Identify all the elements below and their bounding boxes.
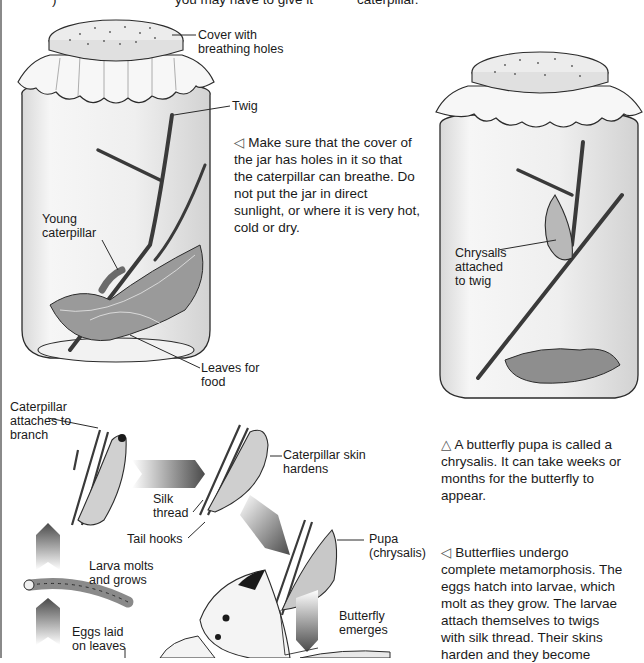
caption-metamorphosis-line: harden and they become (441, 646, 644, 663)
label-chrysalis-line1: Chrysalis (455, 246, 506, 260)
caption-jar-line: cold or dry. (234, 219, 444, 236)
label-young-caterpillar-line2: caterpillar (42, 226, 96, 240)
caption-pupa-line: months for the butterfly to (441, 470, 644, 487)
label-cover: Cover with breathing holes (198, 28, 283, 56)
caption-jar-line: Make sure that the cover of (248, 135, 412, 150)
label-eggs-laid: Eggs laid on leaves (72, 625, 126, 653)
caption-metamorphosis-line: Butterflies undergo (455, 545, 568, 560)
caption-jar-line: not put the jar in direct (234, 185, 444, 202)
label-butterfly-emerges-line1: Butterfly (339, 609, 388, 623)
caption-metamorphosis-line: complete metamorphosis. The (441, 561, 644, 578)
label-chrysalis-line2: attached (455, 260, 506, 274)
label-butterfly-emerges-line2: emerges (339, 623, 388, 637)
left-triangle-icon: ◁ (441, 545, 451, 560)
label-attaches-line3: branch (10, 428, 71, 442)
label-young-caterpillar-line1: Young (42, 212, 96, 226)
label-eggs-laid-line2: on leaves (72, 639, 126, 653)
caption-metamorphosis: ◁ Butterflies undergo complete metamorph… (441, 544, 644, 663)
caption-pupa-line: A butterfly pupa is called a (454, 437, 612, 452)
caption-metamorphosis-line: attach themselves to twigs (441, 612, 644, 629)
up-triangle-icon: △ (441, 437, 451, 452)
label-leaves-line2: food (201, 375, 259, 389)
label-silk-thread-line1: Silk (153, 492, 188, 506)
label-pupa-line2: (chrysalis) (369, 546, 426, 560)
caption-metamorphosis-line: with silk thread. Their skins (441, 629, 644, 646)
label-pupa: Pupa (chrysalis) (369, 532, 426, 560)
jar-left-illustration (18, 20, 230, 368)
jar-right-illustration (436, 52, 642, 398)
label-skin-hardens-line2: hardens (283, 462, 366, 476)
caption-jar-line: the jar has holes in it so that (234, 151, 444, 168)
label-caterpillar-attaches: Caterpillar attaches to branch (10, 400, 71, 442)
label-leaves: Leaves for food (201, 361, 259, 389)
label-cover-line2: breathing holes (198, 42, 283, 56)
caption-metamorphosis-line: eggs hatch into larvae, which (441, 578, 644, 595)
label-skin-hardens-line1: Caterpillar skin (283, 448, 366, 462)
caption-jar-line: the caterpillar can breathe. Do (234, 168, 444, 185)
label-silk-thread: Silk thread (153, 492, 188, 520)
caption-pupa-line: chrysalis. It can take weeks or (441, 453, 644, 470)
label-leaves-line1: Leaves for (201, 361, 259, 375)
caption-pupa-line: appear. (441, 487, 644, 504)
caption-jar-line: sunlight, or where it is very hot, (234, 202, 444, 219)
label-larva-molts-line2: and grows (89, 573, 154, 587)
label-larva-molts: Larva molts and grows (89, 559, 154, 587)
label-skin-hardens: Caterpillar skin hardens (283, 448, 366, 476)
caption-pupa: △ A butterfly pupa is called a chrysalis… (441, 436, 644, 504)
label-attaches-line2: attaches to (10, 414, 71, 428)
left-triangle-icon: ◁ (234, 135, 244, 150)
label-chrysalis-line3: to twig (455, 274, 506, 288)
label-twig: Twig (232, 99, 258, 113)
label-pupa-line1: Pupa (369, 532, 426, 546)
label-cover-line1: Cover with (198, 28, 283, 42)
label-young-caterpillar: Young caterpillar (42, 212, 96, 240)
label-attaches-line1: Caterpillar (10, 400, 71, 414)
label-butterfly-emerges: Butterfly emerges (339, 609, 388, 637)
label-silk-thread-line2: thread (153, 506, 188, 520)
caption-metamorphosis-line: molt as they grow. The larvae (441, 595, 644, 612)
label-chrysalis-attached: Chrysalis attached to twig (455, 246, 506, 288)
caption-jar-instructions: ◁ Make sure that the cover of the jar ha… (234, 134, 444, 236)
label-eggs-laid-line1: Eggs laid (72, 625, 126, 639)
label-larva-molts-line1: Larva molts (89, 559, 154, 573)
label-tail-hooks: Tail hooks (127, 532, 183, 546)
